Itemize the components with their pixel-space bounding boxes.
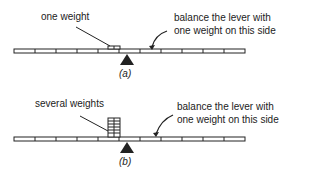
caption-b: (b) (119, 156, 131, 167)
label-several-weights: several weights (35, 98, 104, 110)
arrow-a (152, 31, 167, 47)
caption-a: (a) (119, 68, 131, 79)
leader-line-a (76, 27, 110, 46)
label-balance-b-line2: one weight on this side (177, 114, 279, 126)
fulcrum-b (120, 142, 134, 153)
fulcrum-a (120, 54, 134, 65)
label-balance-a-line1: balance the lever with (174, 12, 271, 24)
leader-line-b (80, 116, 108, 131)
arrow-b (156, 115, 173, 134)
weight-stack (108, 118, 120, 137)
label-balance-a-line2: one weight on this side (174, 25, 276, 37)
label-one-weight: one weight (41, 11, 89, 23)
label-balance-b-line1: balance the lever with (177, 101, 274, 113)
